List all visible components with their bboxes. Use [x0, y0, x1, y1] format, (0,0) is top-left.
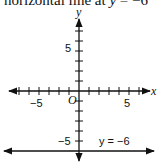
graph-figure: horizontal line at y = −6 [0, 0, 158, 163]
origin-label: O [68, 93, 77, 107]
x-tick-label-neg5: −5 [30, 97, 43, 109]
y-tick-label-5: 5 [65, 42, 71, 54]
coordinate-plane: y x O −5 5 5 −5 y = −6 [0, 0, 158, 163]
x-axis-label: x [150, 84, 157, 98]
line-equation-label: y = −6 [99, 135, 130, 147]
x-tick-label-5: 5 [124, 97, 130, 109]
y-tick-label-neg5: −5 [58, 135, 71, 147]
y-axis-label: y [75, 5, 82, 19]
